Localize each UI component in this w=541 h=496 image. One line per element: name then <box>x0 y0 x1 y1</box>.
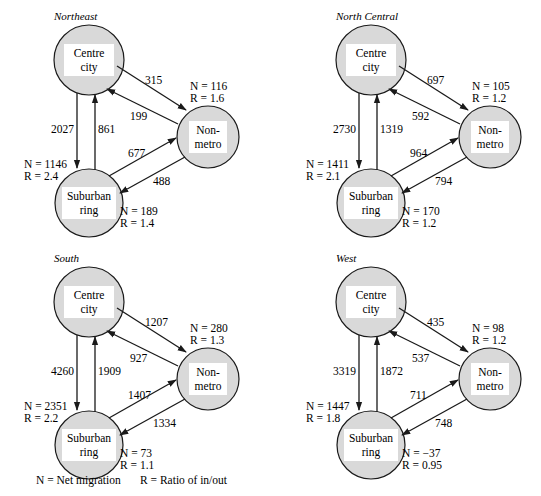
panel-title: West <box>336 252 357 264</box>
flow-label-suburban-to-centre: 1319 <box>380 123 403 135</box>
nonmetro-ratio: R = 1.2 <box>472 92 507 104</box>
suburban-side-ratio: R = 2.1 <box>306 170 341 182</box>
flow-label-suburban-to-centre: 1909 <box>98 365 121 377</box>
flow-label-suburban-to-centre: 861 <box>98 123 116 135</box>
node-label-line2: ring <box>362 204 381 217</box>
flow-label-nonmetro-to-centre: 199 <box>130 110 148 122</box>
node-label-line1: Centre <box>74 47 105 59</box>
node-centre: Centrecity <box>54 25 124 95</box>
node-label-line1: Centre <box>356 289 387 301</box>
suburban-ratio: R = 1.4 <box>120 217 155 229</box>
node-label-line2: city <box>80 61 97 74</box>
suburban-side-net-migration: N = 1447 <box>306 400 350 412</box>
node-label-line1: Centre <box>74 289 105 301</box>
suburban-net-migration: N = 170 <box>402 205 440 217</box>
node-label-line2: metro <box>195 380 222 392</box>
suburban-side-net-migration: N = 2351 <box>24 400 68 412</box>
node-centre: Centrecity <box>54 267 124 337</box>
legend-ratio: R = Ratio of in/out <box>140 474 228 486</box>
node-label-line2: city <box>362 303 379 316</box>
arrow-centre-to-nonmetro <box>399 308 468 352</box>
flow-label-suburban-to-centre: 1872 <box>380 365 403 377</box>
node-suburban: Suburbanring <box>337 169 405 237</box>
node-centre: Centrecity <box>336 267 406 337</box>
node-suburban: Suburbanring <box>55 169 123 237</box>
node-label-line2: city <box>80 303 97 316</box>
flow-label-suburban-to-nonmetro: 677 <box>128 147 146 159</box>
flow-label-centre-to-nonmetro: 315 <box>145 74 163 86</box>
arrow-centre-to-nonmetro <box>117 308 186 352</box>
node-centre: Centrecity <box>336 25 406 95</box>
suburban-side-ratio: R = 2.4 <box>24 170 59 182</box>
flow-label-nonmetro-to-centre: 537 <box>412 352 430 364</box>
node-label-line1: Suburban <box>349 190 393 202</box>
nonmetro-net-migration: N = 105 <box>472 80 510 92</box>
node-nonmetro: Non-metro <box>177 348 239 410</box>
flow-label-centre-to-suburban: 2027 <box>51 123 74 135</box>
node-label-line1: Non- <box>196 124 220 136</box>
flow-label-centre-to-nonmetro: 697 <box>427 74 445 86</box>
node-label-line2: metro <box>195 138 222 150</box>
flow-label-suburban-to-nonmetro: 1407 <box>128 389 151 401</box>
node-nonmetro: Non-metro <box>459 106 521 168</box>
panel-title: Northeast <box>53 10 98 22</box>
flow-label-nonmetro-to-suburban: 1334 <box>153 417 176 429</box>
flow-label-nonmetro-to-centre: 927 <box>130 352 148 364</box>
legend-net-migration: N = Net migration <box>36 474 121 487</box>
flow-label-centre-to-nonmetro: 1207 <box>145 316 168 328</box>
nonmetro-ratio: R = 1.6 <box>190 92 225 104</box>
node-label-line2: metro <box>477 138 504 150</box>
node-suburban: Suburbanring <box>337 411 405 479</box>
suburban-net-migration: N = −37 <box>402 447 441 459</box>
node-label-line2: city <box>362 61 379 74</box>
suburban-side-net-migration: N = 1146 <box>24 158 67 170</box>
node-nonmetro: Non-metro <box>459 348 521 410</box>
flow-label-centre-to-suburban: 2730 <box>333 123 356 135</box>
suburban-ratio: R = 1.1 <box>120 459 155 471</box>
suburban-ratio: R = 1.2 <box>402 217 437 229</box>
arrow-centre-to-nonmetro <box>399 66 468 110</box>
panel-south: SouthCentrecityNon-metroSuburbanring1207… <box>24 252 239 479</box>
flow-label-suburban-to-nonmetro: 711 <box>410 389 427 401</box>
node-label-line1: Non- <box>196 366 220 378</box>
flow-label-centre-to-nonmetro: 435 <box>427 316 445 328</box>
node-label-line1: Suburban <box>67 190 111 202</box>
nonmetro-ratio: R = 1.3 <box>190 334 225 346</box>
nonmetro-ratio: R = 1.2 <box>472 334 507 346</box>
flow-label-centre-to-suburban: 3319 <box>333 365 356 377</box>
node-label-line1: Suburban <box>349 432 393 444</box>
flow-label-suburban-to-nonmetro: 964 <box>410 147 428 159</box>
suburban-side-ratio: R = 1.8 <box>306 412 341 424</box>
legend: N = Net migration R = Ratio of in/out <box>36 474 228 487</box>
flow-label-centre-to-suburban: 4260 <box>51 365 74 377</box>
suburban-ratio: R = 0.95 <box>402 459 442 471</box>
suburban-net-migration: N = 73 <box>120 447 152 459</box>
node-label-line2: ring <box>362 446 381 459</box>
panel-northeast: NortheastCentrecityNon-metroSuburbanring… <box>24 10 239 237</box>
flow-label-nonmetro-to-centre: 592 <box>412 110 430 122</box>
flow-label-nonmetro-to-suburban: 748 <box>435 417 453 429</box>
node-label-line1: Non- <box>478 124 502 136</box>
nonmetro-net-migration: N = 280 <box>190 322 228 334</box>
nonmetro-net-migration: N = 116 <box>190 80 228 92</box>
node-label-line1: Suburban <box>67 432 111 444</box>
suburban-side-net-migration: N = 1411 <box>306 158 349 170</box>
flow-label-nonmetro-to-suburban: 488 <box>153 175 171 187</box>
arrow-centre-to-nonmetro <box>117 66 186 110</box>
node-label-line2: ring <box>80 204 99 217</box>
panel-title: South <box>54 252 80 264</box>
panel-north-central: North CentralCentrecityNon-metroSuburban… <box>306 10 521 237</box>
suburban-net-migration: N = 189 <box>120 205 158 217</box>
node-label-line2: ring <box>80 446 99 459</box>
nonmetro-net-migration: N = 98 <box>472 322 504 334</box>
node-nonmetro: Non-metro <box>177 106 239 168</box>
panel-title: North Central <box>335 10 398 22</box>
panel-west: WestCentrecityNon-metroSuburbanring43553… <box>306 252 521 479</box>
migration-flow-diagram: NortheastCentrecityNon-metroSuburbanring… <box>0 0 541 496</box>
node-label-line1: Non- <box>478 366 502 378</box>
flow-label-nonmetro-to-suburban: 794 <box>435 175 453 187</box>
node-label-line2: metro <box>477 380 504 392</box>
node-suburban: Suburbanring <box>55 411 123 479</box>
node-label-line1: Centre <box>356 47 387 59</box>
suburban-side-ratio: R = 2.2 <box>24 412 59 424</box>
